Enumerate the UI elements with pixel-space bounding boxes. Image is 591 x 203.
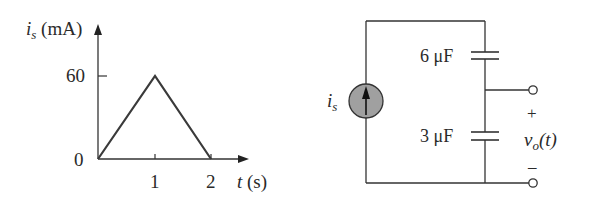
y-tick-label-0: 0 — [74, 149, 84, 170]
terminal-bottom — [529, 179, 537, 187]
vout-label: vo(t) — [524, 129, 557, 153]
x-tick-label-1: 1 — [150, 171, 160, 192]
terminal-top — [529, 86, 537, 94]
current-waveform-graph — [94, 24, 249, 163]
y-axis-label: is (mA) — [26, 18, 82, 42]
x-axis-arrow-icon — [238, 155, 249, 163]
x-axis-label: t (s) — [237, 171, 267, 193]
y-axis-arrow-icon — [94, 24, 102, 35]
source-label: is — [327, 90, 337, 114]
triangle-waveform — [98, 76, 211, 159]
plus-sign: + — [527, 104, 537, 123]
minus-sign: – — [527, 157, 537, 176]
figure: is (mA) 60 0 1 2 t (s) is 6 μF 3 μF + — [0, 0, 591, 203]
y-tick-label-60: 60 — [66, 65, 85, 86]
cap-3uF-label: 3 μF — [420, 126, 453, 146]
x-tick-label-2: 2 — [206, 171, 216, 192]
cap-6uF-label: 6 μF — [420, 46, 453, 66]
